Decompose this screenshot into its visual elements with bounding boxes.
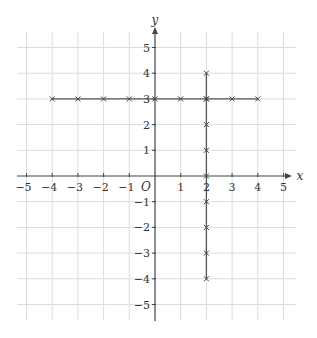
- x-tick-label: 2: [203, 181, 210, 194]
- y-tick-label: 2: [143, 119, 150, 132]
- coordinate-graph: −5−4−3−2−11234554321−1−2−3−4−5Oxy: [0, 0, 317, 338]
- y-tick-label: −1: [134, 196, 150, 209]
- x-tick-label: −3: [67, 181, 83, 194]
- y-tick-label: −3: [134, 247, 150, 260]
- y-tick-label: −4: [134, 273, 150, 286]
- y-axis-arrow-icon: [152, 27, 158, 34]
- x-tick-label: 1: [177, 181, 184, 194]
- axes: [17, 27, 292, 321]
- x-tick-label: −1: [118, 181, 134, 194]
- x-tick-label: 4: [254, 181, 261, 194]
- y-tick-label: 3: [143, 93, 150, 106]
- y-tick-label: −5: [134, 299, 150, 312]
- x-tick-label: −2: [92, 181, 108, 194]
- origin-label: O: [141, 180, 151, 194]
- y-axis-label: y: [151, 13, 159, 27]
- x-axis-arrow-icon: [285, 173, 292, 179]
- x-tick-label: 5: [280, 181, 287, 194]
- y-tick-label: 1: [143, 144, 150, 157]
- y-tick-label: 4: [143, 67, 150, 80]
- x-tick-label: −4: [41, 181, 57, 194]
- x-tick-label: −5: [15, 181, 31, 194]
- axis-labels: −5−4−3−2−11234554321−1−2−3−4−5Oxy: [15, 13, 303, 312]
- x-tick-label: 3: [229, 181, 236, 194]
- x-axis-label: x: [297, 169, 304, 183]
- y-tick-label: −2: [134, 221, 150, 234]
- y-tick-label: 5: [143, 42, 150, 55]
